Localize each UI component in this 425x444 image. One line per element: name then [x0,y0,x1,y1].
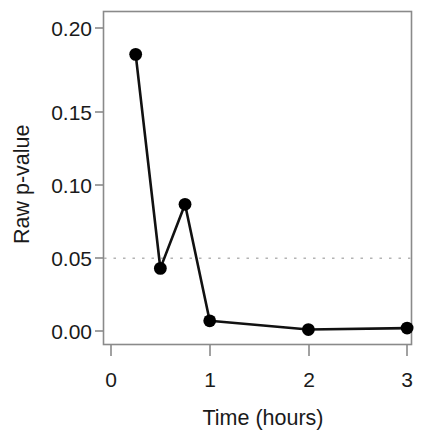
data-point [179,198,192,211]
x-tick-label-1: 1 [195,369,225,390]
y-axis-title: Raw p-value [12,125,34,245]
data-series-line [136,54,407,329]
x-tick-label-3: 3 [392,369,422,390]
x-tick-label-0: 0 [96,369,126,390]
y-tick-label-4: 0.00 [40,321,92,342]
y-tick-label-0: 0.20 [40,18,92,39]
y-axis-ticks [95,28,103,331]
data-point [129,48,142,61]
y-tick-label-2: 0.10 [40,175,92,196]
y-tick-label-1: 0.15 [40,102,92,123]
y-tick-label-3: 0.05 [40,248,92,269]
x-axis-title: Time (hours) [153,408,373,430]
x-axis-ticks [111,345,407,356]
data-point-markers [129,48,413,336]
data-point [401,322,414,335]
data-point [203,314,216,327]
x-tick-label-2: 2 [294,369,324,390]
chart-figure: 0.20 0.15 0.10 0.05 0.00 0 1 2 3 Raw p-v… [0,0,425,444]
data-point [154,262,167,275]
data-point [302,323,315,336]
